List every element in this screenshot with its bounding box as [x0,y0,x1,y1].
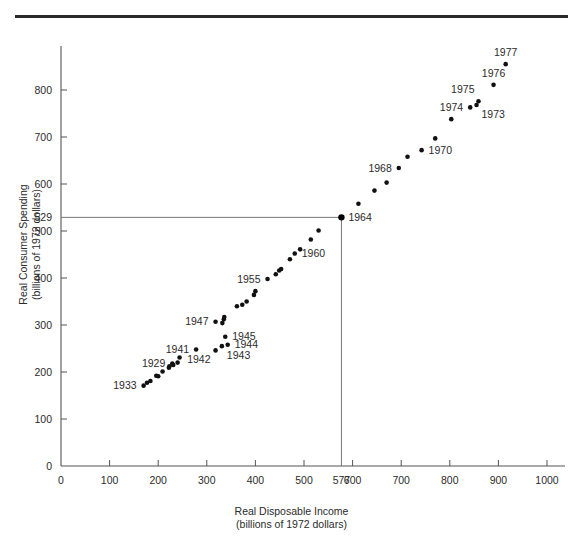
data-point-1964[interactable] [338,214,344,220]
x-tick-label: 200 [149,474,167,486]
x-tick-label: 800 [441,474,459,486]
data-point-1949[interactable] [222,315,227,320]
x-tick-label: 300 [198,474,216,486]
x-tick-label: 0 [58,474,64,486]
data-point-1956[interactable] [274,272,279,277]
data-point-1942[interactable] [213,348,218,353]
data-point-1970[interactable] [419,148,424,153]
data-point-1968[interactable] [396,166,401,171]
y-axis-title-sub: (billions of 1972 dollars) [29,170,42,320]
x-tick-label: 1000 [535,474,559,486]
point-label-1933: 1933 [113,379,137,391]
data-point-1941[interactable] [194,347,199,352]
point-label-1942: 1942 [187,353,211,365]
point-labels-layer: 1929193319411942194319441945194719551960… [113,46,517,391]
data-point-1963[interactable] [316,228,321,233]
x-tick-label: 500 [295,474,313,486]
point-label-1975: 1975 [451,83,475,95]
y-tick-label: 100 [34,413,52,425]
point-label-1968: 1968 [368,162,392,174]
data-point-1969[interactable] [405,154,410,159]
data-point-1958[interactable] [279,267,284,272]
data-point-1959[interactable] [288,257,293,262]
point-label-1947: 1947 [185,315,209,327]
data-point-1940[interactable] [177,355,182,360]
y-axis-title-main: Real Consumer Spending [17,170,30,320]
data-point-1975[interactable] [476,99,481,104]
data-point-1955[interactable] [265,277,270,282]
data-point-1939[interactable] [175,360,180,365]
data-point-1935[interactable] [156,374,161,379]
x-axis-title-sub: (billions of 1972 dollars) [0,518,583,531]
point-label-1943: 1943 [227,349,251,361]
data-point-1945[interactable] [223,334,228,339]
x-tick-label: 600 [344,474,362,486]
point-label-1929: 1929 [142,357,166,369]
y-tick-label: 700 [34,131,52,143]
data-point-1972[interactable] [449,117,454,122]
point-label-1970: 1970 [429,144,453,156]
data-point-1944[interactable] [225,342,230,347]
data-point-1934[interactable] [148,379,153,384]
data-point-1933[interactable] [141,383,146,388]
data-point-1951[interactable] [240,302,245,307]
x-axis-title-main: Real Disposable Income [0,505,583,518]
data-point-1967[interactable] [384,180,389,185]
y-axis-title: Real Consumer Spending (billions of 1972… [17,170,42,320]
data-point-1976[interactable] [491,83,496,88]
point-label-1941: 1941 [166,343,190,355]
point-label-1955: 1955 [237,273,261,285]
figure-container: 1002003004005005296007008000010020030040… [0,0,583,540]
x-tick-label: 400 [247,474,265,486]
y-tick-label: 800 [34,84,52,96]
point-label-1977: 1977 [494,46,518,58]
data-point-1947[interactable] [213,319,218,324]
y-tick-label-zero: 0 [46,460,52,472]
x-axis-title: Real Disposable Income (billions of 1972… [0,505,583,530]
x-tick-label: 900 [490,474,508,486]
data-point-1950[interactable] [235,304,240,309]
data-point-1962[interactable] [309,237,314,242]
data-point-1971[interactable] [433,136,438,141]
point-label-1976: 1976 [482,67,506,79]
data-point-1974[interactable] [468,105,473,110]
x-tick-label: 700 [392,474,410,486]
point-label-1973: 1973 [482,108,506,120]
data-point-1954[interactable] [253,289,258,294]
point-label-1974: 1974 [440,101,464,113]
reference-lines-layer [61,217,341,466]
tick-labels-layer: 1002003004005005296007008000010020030040… [34,84,558,486]
data-point-1938[interactable] [167,364,172,369]
data-point-1966[interactable] [372,188,377,193]
data-point-1965[interactable] [356,201,361,206]
data-point-1943[interactable] [220,344,225,349]
data-point-1977[interactable] [503,62,508,67]
data-point-1960[interactable] [292,251,297,256]
data-point-1930[interactable] [160,369,165,374]
point-label-1960: 1960 [302,247,326,259]
scatter-plot: 1002003004005005296007008000010020030040… [0,0,583,540]
point-label-1945: 1945 [232,330,256,342]
data-point-1952[interactable] [244,299,249,304]
y-tick-label: 300 [34,319,52,331]
x-tick-label: 100 [101,474,119,486]
y-tick-label: 200 [34,366,52,378]
point-label-1964: 1964 [348,211,372,223]
